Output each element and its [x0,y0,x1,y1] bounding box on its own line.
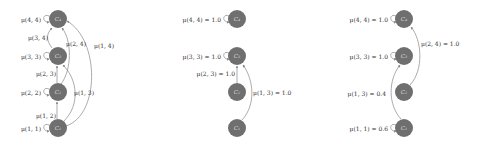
self-loop-2 [44,88,49,95]
label-self-4: μ(4, 4) [21,16,41,24]
svg-text:C₁: C₁ [401,125,407,131]
node-c4: C₄ [49,10,67,28]
label-self-3: μ(3, 3) = 1.0 [183,53,222,61]
label-edge-3-4: μ(3, 4) [28,34,48,42]
label-self-2: μ(2, 2) [21,89,41,97]
svg-text:C₃: C₃ [401,53,407,59]
label-edge-2-4: μ(2, 4) [66,40,86,48]
markov-chain-diagrams: C₁ C₂ C₃ C₄ μ(1, 1) μ(2, 2) μ(3, 3) μ(4,… [0,0,480,146]
svg-text:C₃: C₃ [234,53,240,59]
node-c4: C₄ [395,10,413,28]
label-edge-1-4: μ(1, 4) [94,42,114,50]
svg-text:C₂: C₂ [234,89,240,95]
node-c2: C₂ [228,83,246,101]
panel-full-transition-graph: C₁ C₂ C₃ C₄ μ(1, 1) μ(2, 2) μ(3, 3) μ(4,… [21,10,114,137]
label-self-1: μ(1, 1) [21,125,41,133]
label-self-4: μ(4, 4) = 1.0 [183,16,222,24]
label-edge-1-3: μ(1, 3) = 1.0 [253,89,292,97]
self-loop-3 [44,52,49,59]
node-c2: C₂ [49,83,67,101]
svg-text:C₂: C₂ [401,89,407,95]
svg-text:C₂: C₂ [55,89,61,95]
self-loop-4 [44,15,49,22]
label-self-3: μ(3, 3) = 1.0 [350,53,389,61]
node-c3: C₃ [49,47,67,65]
label-self-3: μ(3, 3) [21,53,41,61]
label-edge-1-3: μ(1, 3) = 0.4 [348,90,387,98]
svg-text:C₄: C₄ [401,16,407,22]
edge-3-4 [48,28,53,48]
node-c2: C₂ [395,83,413,101]
label-self-4: μ(4, 4) = 1.0 [350,16,389,24]
node-c4: C₄ [228,10,246,28]
node-c1: C₁ [49,119,67,137]
label-edge-1-3: μ(1, 3) [74,89,94,97]
svg-text:C₁: C₁ [234,125,240,131]
label-edge-1-2: μ(1, 2) [36,112,56,120]
svg-text:C₄: C₄ [234,16,240,22]
svg-text:C₁: C₁ [55,125,61,131]
node-c1: C₁ [228,119,246,137]
label-self-1: μ(1, 1) = 0.6 [350,125,389,133]
panel-example-transition-graph-b: C₁ C₂ C₃ C₄ μ(1, 1) = 0.6 μ(3, 3) = 1.0 … [348,10,460,137]
svg-text:C₄: C₄ [55,16,61,22]
panel-example-transition-graph-a: C₁ C₂ C₃ C₄ μ(3, 3) = 1.0 μ(4, 4) = 1.0 … [183,10,292,137]
svg-text:C₃: C₃ [55,53,61,59]
node-c1: C₁ [395,119,413,137]
label-edge-2-3: μ(2, 3) = 1.0 [197,70,236,78]
node-c3: C₃ [228,47,246,65]
node-c3: C₃ [395,47,413,65]
label-edge-2-4: μ(2, 4) = 1.0 [421,40,460,48]
label-edge-2-3: μ(2, 3) [36,70,56,78]
self-loop-1 [44,124,49,131]
